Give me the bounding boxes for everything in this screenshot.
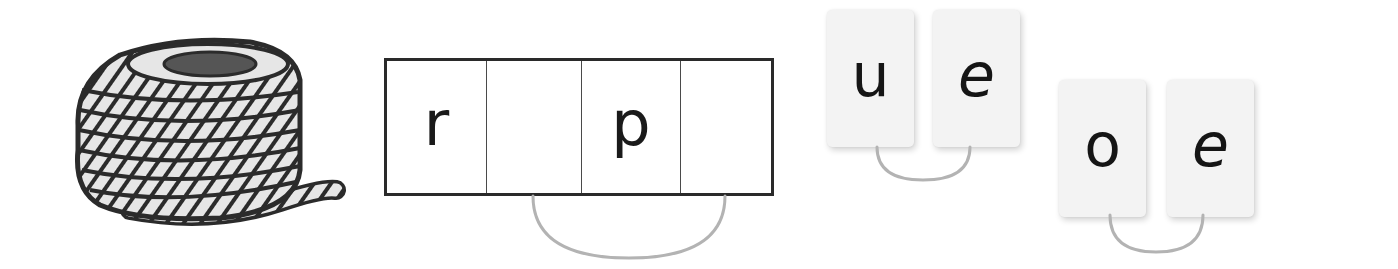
card-pair-link-arc — [0, 0, 1398, 269]
